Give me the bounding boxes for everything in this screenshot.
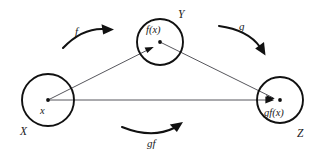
set-label-x: X [20,126,27,138]
element-label-fx: f(x) [146,25,161,36]
element-dot-x [46,98,50,102]
diagram-canvas [0,0,322,159]
set-label-z: Z [297,128,303,140]
map-label-g: g [239,21,245,32]
curved-arrow-gf [122,122,183,133]
element-label-gfx: gf(x) [264,108,284,119]
function-composition-diagram: X Y Z x f(x) gf(x) f g gf [0,0,322,159]
set-label-y: Y [178,9,184,21]
map-label-gf: gf [147,138,156,149]
element-label-x: x [40,106,45,117]
mapping-line-gf [48,96,274,103]
element-dot-gfx [278,98,282,102]
mapping-line-f [48,47,154,100]
curved-arrow-f [63,24,114,48]
element-dot-fx [158,40,162,44]
map-label-f: f [75,26,78,37]
